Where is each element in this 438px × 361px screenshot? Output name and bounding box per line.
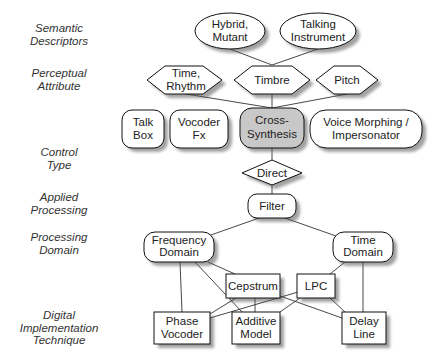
node-text: Impersonator (332, 129, 400, 141)
node-text: Hybrid, (212, 18, 248, 30)
node-cepstrum: Cepstrum (226, 274, 284, 302)
node-text: LPC (305, 280, 327, 292)
node-direct: Direct (242, 160, 306, 189)
node-text: Vocoder (161, 328, 203, 340)
node-timbre: Timbre (234, 66, 314, 98)
node-time-domain: Time Domain (333, 232, 397, 266)
node-hybrid-mutant: Hybrid, Mutant (195, 13, 269, 53)
node-filter: Filter (248, 194, 300, 222)
node-text: Talk (133, 116, 154, 128)
edge-filter-frequency (208, 217, 262, 236)
node-text: Timbre (254, 74, 289, 86)
node-text: Filter (259, 200, 285, 212)
node-text: Fx (193, 129, 206, 141)
node-text: Domain (159, 246, 199, 258)
node-additive-model: Additive Model (232, 312, 284, 348)
node-talking-instrument: Talking Instrument (280, 13, 360, 53)
node-text: Delay (349, 315, 379, 327)
node-vocoder-fx: Vocoder Fx (170, 110, 232, 152)
node-lpc: LPC (297, 274, 339, 302)
node-text: Phase (166, 315, 199, 327)
node-time-rhythm: Time, Rhythm (147, 66, 226, 98)
diagram-canvas: Hybrid, Mutant Talking Instrument Time, … (0, 0, 438, 361)
node-text: Box (133, 129, 153, 141)
node-text: Time (350, 234, 375, 246)
node-text: Voice Morphing / (323, 116, 409, 128)
node-text: Domain (343, 246, 383, 258)
node-text: Time, (172, 67, 200, 79)
node-phase-vocoder: Phase Vocoder (154, 312, 214, 348)
node-text: Cross- (255, 114, 289, 126)
node-text: Instrument (291, 31, 346, 43)
node-text: Cepstrum (228, 280, 278, 292)
node-text: Rhythm (166, 80, 206, 92)
node-voice-morphing: Voice Morphing / Impersonator (310, 110, 426, 152)
node-delay-line: Delay Line (342, 312, 390, 348)
node-text: Talking (300, 18, 336, 30)
node-text: Frequency (152, 234, 207, 246)
node-text: Additive (236, 315, 277, 327)
node-cross-synthesis: Cross- Synthesis (240, 108, 308, 152)
node-frequency-domain: Frequency Domain (144, 232, 218, 266)
node-text: Line (353, 328, 375, 340)
edge-frequency-phase (180, 262, 182, 312)
node-text: Mutant (212, 31, 248, 43)
node-text: Model (240, 328, 271, 340)
node-text: Vocoder (178, 116, 220, 128)
node-talk-box: Talk Box (122, 110, 168, 152)
node-text: Direct (257, 167, 288, 179)
node-text: Pitch (334, 74, 360, 86)
node-pitch: Pitch (316, 66, 382, 98)
node-text: Synthesis (247, 128, 297, 140)
